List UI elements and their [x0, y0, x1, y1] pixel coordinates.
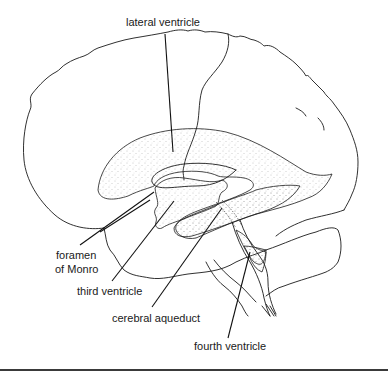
label-cerebral-aqueduct: cerebral aqueduct	[112, 312, 200, 325]
cerebrum-notch	[296, 108, 306, 116]
label-foramen-line2: of Monro	[55, 263, 98, 276]
label-lateral-ventricle: lateral ventricle	[126, 16, 200, 29]
label-foramen-line1: foramen	[56, 249, 96, 262]
bottom-rule-divider	[0, 369, 388, 371]
pons-outline	[206, 262, 248, 316]
cerebellum-outline	[266, 228, 341, 296]
fourth-ventricle-shape	[244, 246, 266, 272]
leader-foramen	[100, 200, 150, 232]
cerebrum-notch	[318, 118, 324, 130]
leader-foramen	[80, 192, 154, 245]
label-third-ventricle: third ventricle	[77, 285, 142, 298]
pons-outline	[214, 260, 256, 302]
leader-third-ventricle	[112, 201, 174, 281]
label-fourth-ventricle: fourth ventricle	[194, 340, 266, 353]
cerebrum-lower	[276, 210, 344, 236]
